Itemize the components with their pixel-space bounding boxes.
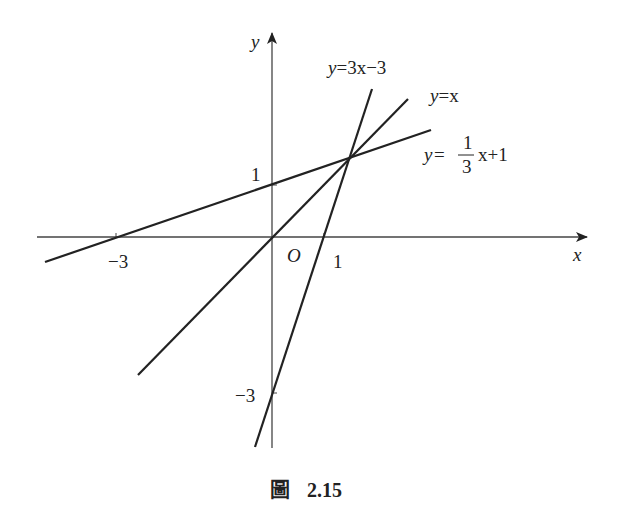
svg-text:2.15: 2.15 bbox=[307, 479, 342, 501]
svg-text:y: y bbox=[422, 144, 433, 165]
svg-text:=: = bbox=[434, 144, 445, 165]
x-axis-label: x bbox=[572, 244, 582, 265]
tick-label-x-1: 1 bbox=[333, 251, 343, 272]
function-graph: y x O −3 1 1 −3 y=3x−3 y=x y = 1 3 x+1 圖… bbox=[0, 0, 619, 529]
tick-label-y-1: 1 bbox=[251, 164, 261, 185]
label-y-eq-x: y=x bbox=[428, 85, 459, 106]
y-axis-label: y bbox=[249, 31, 260, 52]
svg-text:x+1: x+1 bbox=[478, 144, 508, 165]
label-3x-minus-3: y=3x−3 bbox=[326, 57, 386, 78]
figure-caption: 圖 2.15 bbox=[270, 479, 342, 501]
label-third-x-plus-1: y = 1 3 x+1 bbox=[422, 132, 508, 177]
tick-label-y-neg3: −3 bbox=[235, 385, 255, 406]
line-y-eq-x-third-plus-1 bbox=[45, 130, 431, 262]
origin-label: O bbox=[287, 245, 301, 266]
tick-label-x-neg3: −3 bbox=[108, 251, 128, 272]
svg-text:圖: 圖 bbox=[270, 479, 290, 501]
svg-text:3: 3 bbox=[462, 156, 472, 177]
svg-text:1: 1 bbox=[463, 132, 473, 153]
